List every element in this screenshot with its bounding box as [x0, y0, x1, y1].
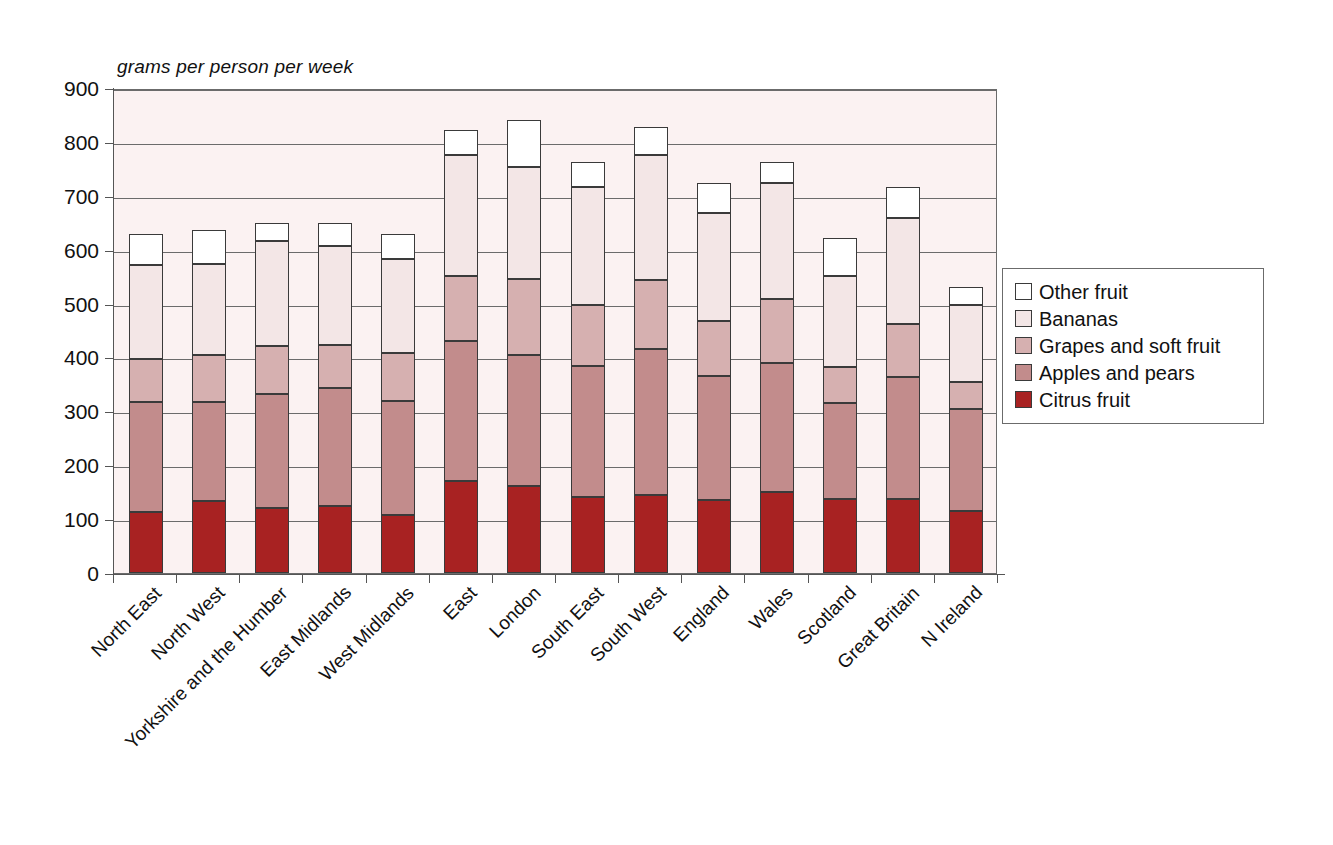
- x-axis-category-label: England: [669, 582, 734, 647]
- bar-segment: [255, 394, 289, 508]
- bar-stack: [381, 88, 415, 573]
- y-axis-tick-mark: [105, 412, 114, 413]
- legend-swatch-icon: [1015, 391, 1032, 408]
- bar-segment: [697, 376, 731, 500]
- y-axis-tick-label: 0: [87, 562, 99, 586]
- bar-segment: [571, 162, 605, 187]
- bar-segment: [507, 486, 541, 573]
- bar-segment: [823, 276, 857, 367]
- plot-area: [113, 89, 997, 574]
- y-axis-tick-mark: [105, 358, 114, 359]
- bar-segment: [129, 512, 163, 573]
- x-axis-tick-mark: [366, 574, 367, 583]
- y-axis-tick-mark: [105, 197, 114, 198]
- y-axis-tick-label: 400: [64, 346, 99, 370]
- bar-segment: [507, 167, 541, 280]
- bar-segment: [760, 299, 794, 363]
- bar-segment: [949, 287, 983, 305]
- bar-stack: [634, 88, 668, 573]
- bar-stack: [571, 88, 605, 573]
- gridline: [114, 144, 996, 145]
- y-axis-tick-mark: [105, 520, 114, 521]
- legend-item[interactable]: Citrus fruit: [1015, 386, 1253, 413]
- bar-segment: [886, 218, 920, 324]
- x-axis-tick-mark: [997, 574, 998, 583]
- y-axis-tick-mark: [105, 305, 114, 306]
- bar-segment: [255, 223, 289, 240]
- y-axis-tick-mark: [105, 466, 114, 467]
- bar-segment: [318, 246, 352, 345]
- y-axis-unit-title: grams per person per week: [117, 56, 353, 78]
- bar-segment: [318, 345, 352, 388]
- bar-segment: [823, 499, 857, 573]
- bar-segment: [571, 305, 605, 366]
- x-axis-tick-mark: [871, 574, 872, 583]
- legend-swatch-icon: [1015, 337, 1032, 354]
- legend-item[interactable]: Bananas: [1015, 305, 1253, 332]
- bar-segment: [886, 377, 920, 499]
- y-axis-tick-label: 500: [64, 293, 99, 317]
- y-axis-tick-label: 300: [64, 400, 99, 424]
- bar-segment: [255, 508, 289, 573]
- x-axis-tick-mark: [681, 574, 682, 583]
- bar-segment: [697, 500, 731, 573]
- bar-segment: [697, 213, 731, 321]
- bar-segment: [634, 127, 668, 155]
- y-axis-tick-label: 700: [64, 185, 99, 209]
- gridline: [114, 90, 996, 91]
- x-axis-tick-mark: [239, 574, 240, 583]
- bar-segment: [823, 238, 857, 276]
- bar-stack: [760, 88, 794, 573]
- bar-segment: [697, 183, 731, 213]
- bar-segment: [129, 402, 163, 512]
- bar-segment: [129, 234, 163, 266]
- legend-item-label: Other fruit: [1039, 282, 1128, 302]
- legend-item-label: Bananas: [1039, 309, 1118, 329]
- bar-segment: [444, 130, 478, 155]
- x-axis-category-label: East: [439, 582, 481, 624]
- bar-segment: [760, 183, 794, 299]
- bar-segment: [255, 241, 289, 347]
- bar-segment: [760, 363, 794, 492]
- bar-segment: [886, 187, 920, 218]
- x-axis-tick-mark: [492, 574, 493, 583]
- bar-segment: [634, 280, 668, 349]
- legend-item-label: Grapes and soft fruit: [1039, 336, 1220, 356]
- stacked-bar-chart: grams per person per week 01002003004005…: [0, 0, 1333, 845]
- bar-segment: [381, 259, 415, 353]
- legend-item[interactable]: Apples and pears: [1015, 359, 1253, 386]
- gridline: [114, 306, 996, 307]
- bar-segment: [318, 223, 352, 246]
- bar-segment: [949, 511, 983, 574]
- y-axis-tick-mark: [105, 251, 114, 252]
- bar-segment: [444, 481, 478, 573]
- bar-segment: [192, 501, 226, 573]
- bar-segment: [760, 492, 794, 573]
- bar-segment: [381, 515, 415, 573]
- x-axis-tick-mark: [176, 574, 177, 583]
- gridline: [114, 198, 996, 199]
- x-axis-tick-mark: [808, 574, 809, 583]
- bar-segment: [444, 276, 478, 341]
- y-axis-tick-mark: [105, 89, 114, 90]
- bar-segment: [444, 341, 478, 481]
- bar-segment: [634, 495, 668, 573]
- x-axis-category-label: N Ireland: [917, 582, 987, 652]
- bar-segment: [192, 264, 226, 356]
- bar-segment: [192, 355, 226, 402]
- legend-item[interactable]: Grapes and soft fruit: [1015, 332, 1253, 359]
- bar-stack: [129, 88, 163, 573]
- y-axis-tick-label: 900: [64, 77, 99, 101]
- bar-stack: [318, 88, 352, 573]
- legend-item[interactable]: Other fruit: [1015, 278, 1253, 305]
- legend-item-label: Apples and pears: [1039, 363, 1195, 383]
- bar-stack: [192, 88, 226, 573]
- bar-segment: [634, 155, 668, 281]
- bar-segment: [886, 499, 920, 573]
- gridline: [114, 413, 996, 414]
- y-axis-tick-mark: [105, 143, 114, 144]
- y-axis-tick-label: 600: [64, 239, 99, 263]
- legend-item-label: Citrus fruit: [1039, 390, 1130, 410]
- gridline: [114, 252, 996, 253]
- bar-segment: [697, 321, 731, 377]
